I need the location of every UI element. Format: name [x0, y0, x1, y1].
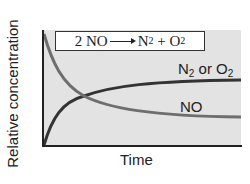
product-label-o-subscript: 2	[228, 68, 234, 79]
chart: 2 NO N2 + O2 N2 or O2 NO Relative concen…	[0, 0, 250, 184]
x-axis	[42, 145, 242, 147]
y-axis-label-text: Relative concentration	[4, 19, 21, 167]
reaction-equation: 2 NO N2 + O2	[55, 31, 205, 51]
reactant-series-label: NO	[180, 98, 203, 115]
equation-reactant: NO	[86, 33, 108, 50]
product-series-label: N2 or O2	[178, 60, 233, 77]
product-label-o: O	[216, 60, 228, 77]
product-label-or: or	[199, 60, 212, 77]
equation-coefficient: 2	[75, 33, 83, 50]
equation-product-2: O	[169, 33, 180, 50]
y-axis-label: Relative concentration	[3, 16, 21, 171]
product-label-n-subscript: 2	[189, 68, 195, 79]
x-axis-label: Time	[120, 151, 153, 168]
reaction-arrow-icon	[110, 36, 136, 46]
equation-plus: +	[157, 33, 165, 50]
y-axis	[42, 30, 44, 147]
equation-product-1: N	[138, 33, 149, 50]
product-label-n: N	[178, 60, 189, 77]
